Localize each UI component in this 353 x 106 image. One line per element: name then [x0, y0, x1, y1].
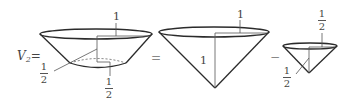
frustum: [40, 23, 152, 76]
small-cone: [283, 33, 337, 74]
frustum-height-label: 1 2: [40, 62, 48, 85]
large-cone-right-side: [215, 32, 269, 88]
frac-numerator: 1: [319, 9, 325, 19]
frustum-bottom-radius-label: 1 2: [105, 77, 113, 100]
frac-numerator: 1: [284, 66, 290, 76]
frac-numerator: 1: [106, 77, 112, 87]
frac-denominator: 2: [284, 79, 290, 89]
volume-symbol: V: [17, 49, 26, 63]
small-cone-right-side: [309, 46, 337, 73]
equals-sign: =: [151, 52, 161, 64]
frustum-top-radius-label: 1: [113, 11, 120, 22]
large-cone: [159, 20, 269, 88]
frac-denominator: 2: [106, 90, 112, 100]
frustum-top-ellipse: [40, 29, 152, 39]
small-cone-radius-label: 1 2: [318, 9, 326, 32]
large-cone-top-ellipse: [159, 27, 269, 37]
frustum-bottom-front: [70, 63, 126, 68]
frac-denominator: 2: [41, 75, 47, 85]
frac-numerator: 1: [41, 62, 47, 72]
frac-denominator: 2: [319, 22, 325, 32]
large-cone-height-label: 1: [200, 55, 207, 66]
minus-sign: −: [270, 51, 280, 63]
volume-label: V2=: [17, 50, 41, 64]
volume-decomposition-diagram: V2= = − 1 1 2 1 2 1 1 1 2 1 2: [0, 0, 353, 106]
equals-sign-lhs: =: [31, 49, 41, 63]
large-cone-radius-label: 1: [237, 9, 244, 20]
small-cone-top-ellipse: [283, 43, 337, 49]
small-cone-height-label: 1 2: [283, 66, 291, 89]
